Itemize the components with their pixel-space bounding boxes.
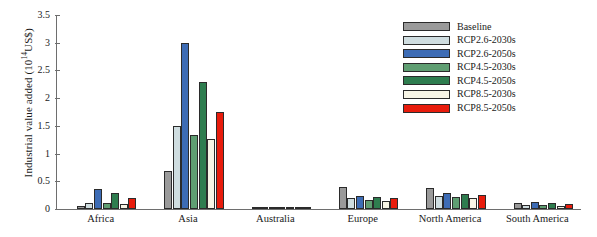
bar xyxy=(207,139,215,209)
bar xyxy=(365,200,373,209)
bar xyxy=(390,198,398,209)
bar xyxy=(347,198,355,209)
legend-item[interactable]: RCP8.5-2030s xyxy=(403,88,583,101)
legend-item[interactable]: RCP2.6-2030s xyxy=(403,34,583,47)
bar xyxy=(120,204,128,209)
bar xyxy=(190,135,198,209)
bar xyxy=(548,203,556,209)
bar xyxy=(514,203,522,209)
legend-item[interactable]: RCP8.5-2050s xyxy=(403,102,583,115)
bar xyxy=(94,189,102,209)
y-axis-tick-label: 3.5 xyxy=(20,10,50,20)
x-axis-tick-label: Australia xyxy=(232,213,319,224)
y-axis-tick-label: 1.5 xyxy=(20,121,50,131)
legend-label: RCP8.5-2030s xyxy=(457,89,516,99)
bar xyxy=(216,112,224,209)
bar xyxy=(461,194,469,209)
y-axis-tick-label: 2.5 xyxy=(20,65,50,75)
y-axis-tick-label: 0 xyxy=(20,204,50,214)
y-axis-tick-label: 1 xyxy=(20,149,50,159)
bar-group xyxy=(77,15,137,209)
y-axis-tick-label: 2 xyxy=(20,93,50,103)
legend-swatch xyxy=(403,36,450,45)
bar xyxy=(269,207,277,209)
bar xyxy=(260,207,268,209)
bar xyxy=(277,207,285,209)
bar xyxy=(339,187,347,209)
bar-group xyxy=(164,15,224,209)
legend-swatch xyxy=(403,90,450,99)
bar xyxy=(128,198,136,209)
bar xyxy=(252,207,260,209)
bar xyxy=(77,206,85,209)
legend-swatch xyxy=(403,22,450,31)
y-axis-tick-labels: 00.511.522.533.5 xyxy=(20,15,50,209)
bar xyxy=(531,202,539,209)
bar-group xyxy=(339,15,399,209)
bar xyxy=(164,171,172,209)
bar xyxy=(103,203,111,209)
bar xyxy=(373,197,381,209)
legend-label: RCP2.6-2050s xyxy=(457,49,516,59)
legend-label: RCP8.5-2050s xyxy=(457,103,516,113)
bar xyxy=(111,193,119,209)
bar xyxy=(565,204,573,209)
bar xyxy=(356,196,364,209)
bar xyxy=(539,205,547,209)
legend-item[interactable]: RCP4.5-2030s xyxy=(403,61,583,74)
y-axis-tick xyxy=(55,209,60,210)
bar xyxy=(443,193,451,209)
x-axis-tick-label: South America xyxy=(494,213,581,224)
legend-item[interactable]: Baseline xyxy=(403,20,583,33)
bar xyxy=(286,207,294,209)
legend-label: Baseline xyxy=(457,22,491,32)
bar xyxy=(173,126,181,209)
legend-swatch xyxy=(403,76,450,85)
bar xyxy=(295,207,303,209)
x-axis-tick-label: Africa xyxy=(57,213,144,224)
x-axis-tick-label: Asia xyxy=(144,213,231,224)
x-axis-tick-label: North America xyxy=(406,213,493,224)
bar xyxy=(557,206,565,209)
y-axis-tick-label: 0.5 xyxy=(20,176,50,186)
legend-swatch xyxy=(403,104,450,113)
bar xyxy=(382,201,390,209)
legend-label: RCP4.5-2050s xyxy=(457,76,516,86)
bar xyxy=(469,198,477,209)
bar xyxy=(426,188,434,209)
legend-item[interactable]: RCP2.6-2050s xyxy=(403,47,583,60)
bar xyxy=(478,195,486,209)
bar xyxy=(303,207,311,209)
x-axis-line xyxy=(56,209,581,210)
bar-group xyxy=(252,15,312,209)
chart-legend: BaselineRCP2.6-2030sRCP2.6-2050sRCP4.5-2… xyxy=(403,20,583,115)
legend-swatch xyxy=(403,49,450,58)
bar xyxy=(522,205,530,209)
legend-label: RCP2.6-2030s xyxy=(457,35,516,45)
legend-swatch xyxy=(403,63,450,72)
y-axis-tick-label: 3 xyxy=(20,38,50,48)
legend-label: RCP4.5-2030s xyxy=(457,62,516,72)
bar xyxy=(85,203,93,209)
legend-item[interactable]: RCP4.5-2050s xyxy=(403,74,583,87)
bar xyxy=(181,43,189,209)
chart-figure: Industrial value added (1014US$) 00.511.… xyxy=(0,0,597,237)
bar xyxy=(452,197,460,209)
bar xyxy=(199,82,207,209)
x-axis-tick-label: Europe xyxy=(319,213,406,224)
bar xyxy=(435,196,443,209)
